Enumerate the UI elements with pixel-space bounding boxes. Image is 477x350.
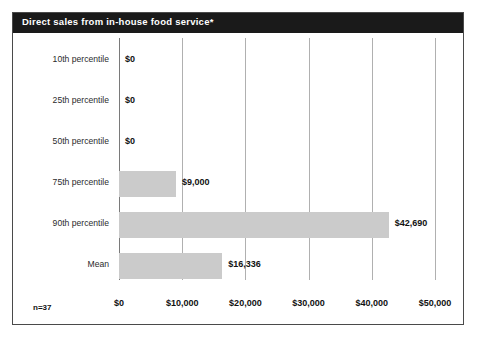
bar-row: Mean$16,336 (13, 246, 463, 287)
x-tick-label: $30,000 (292, 298, 325, 308)
chart-frame: Direct sales from in-house food service*… (12, 12, 464, 325)
x-tick-label: $0 (114, 298, 124, 308)
sample-size-annotation: n=37 (33, 303, 51, 312)
bar-row: 90th percentile$42,690 (13, 205, 463, 246)
category-label: 50th percentile (13, 136, 109, 146)
category-label: 90th percentile (13, 218, 109, 228)
chart-title-bar: Direct sales from in-house food service* (13, 13, 463, 33)
bar (119, 253, 222, 279)
x-tick-label: $20,000 (229, 298, 262, 308)
x-tick-label: $40,000 (356, 298, 389, 308)
category-label: 10th percentile (13, 54, 109, 64)
bar-row: 25th percentile$0 (13, 82, 463, 123)
bar-row: 75th percentile$9,000 (13, 164, 463, 205)
x-tick-label: $50,000 (419, 298, 452, 308)
category-label: Mean (13, 259, 109, 269)
bar (119, 171, 176, 197)
category-label: 25th percentile (13, 95, 109, 105)
x-tick-label: $10,000 (166, 298, 199, 308)
x-axis-tick-labels: $0$10,000$20,000$30,000$40,000$50,000 (13, 298, 463, 312)
chart-title: Direct sales from in-house food service* (22, 16, 214, 27)
bar-row: 10th percentile$0 (13, 41, 463, 82)
bar-value-label: $0 (125, 95, 135, 105)
bar-value-label: $42,690 (395, 218, 428, 228)
bar-row: 50th percentile$0 (13, 123, 463, 164)
bar-value-label: $0 (125, 54, 135, 64)
bar-value-label: $16,336 (228, 259, 261, 269)
plot-area: 10th percentile$025th percentile$050th p… (13, 33, 463, 324)
bar (119, 212, 389, 238)
bar-value-label: $9,000 (182, 177, 210, 187)
category-label: 75th percentile (13, 177, 109, 187)
bar-value-label: $0 (125, 136, 135, 146)
